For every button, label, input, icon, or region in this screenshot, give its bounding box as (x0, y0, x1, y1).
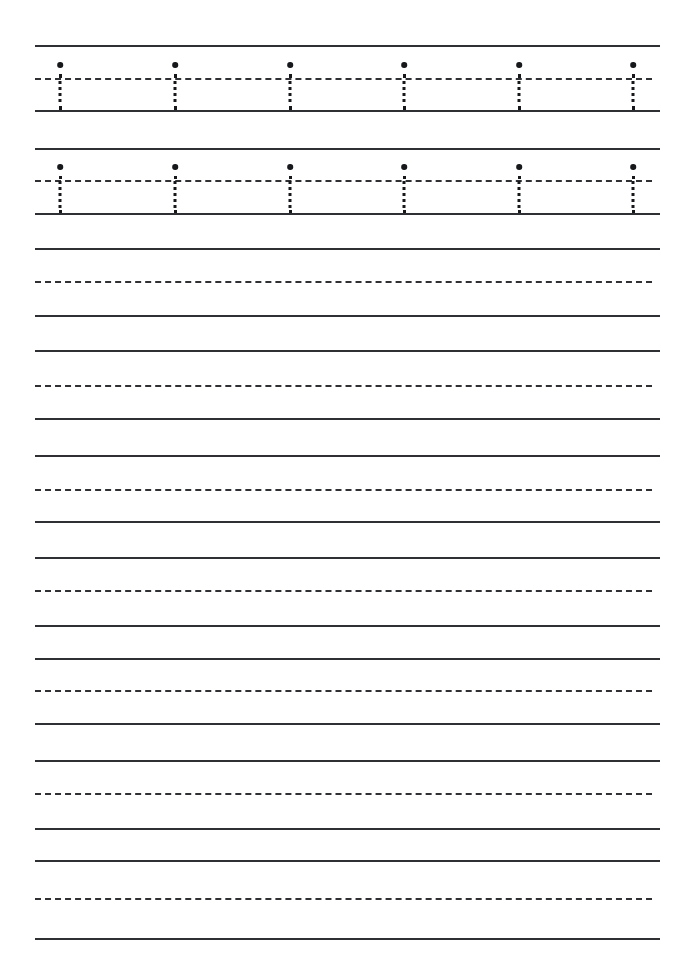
letter-dot-icon (401, 164, 407, 170)
letter-dot-icon (57, 164, 63, 170)
practice-row-2-top-line (35, 350, 660, 352)
trace-letter-i-5 (511, 148, 527, 213)
practice-row-5-mid-line (35, 690, 652, 692)
trace-row-2-top-line (35, 148, 660, 150)
practice-row-1-mid-line (35, 281, 652, 283)
trace-letter-i-2 (167, 148, 183, 213)
practice-row-6-base-line (35, 828, 660, 830)
practice-row-4-mid-line (35, 590, 652, 592)
practice-row-3-base-line (35, 521, 660, 523)
letter-dot-icon (57, 62, 63, 68)
letter-dot-icon (516, 62, 522, 68)
practice-row-2-mid-line (35, 385, 652, 387)
trace-letter-i-1 (52, 148, 68, 213)
practice-row-6-top-line (35, 760, 660, 762)
trace-row-1-mid-line (35, 78, 652, 80)
letter-stem-dotted (518, 74, 521, 110)
trace-letter-i-3 (282, 45, 298, 110)
letter-dot-icon (172, 164, 178, 170)
practice-row-7-mid-line (35, 898, 652, 900)
trace-letter-i-4 (396, 148, 412, 213)
trace-letter-i-4 (396, 45, 412, 110)
trace-letter-i-1 (52, 45, 68, 110)
trace-letter-i-6 (625, 148, 641, 213)
trace-row-1-base-line (35, 110, 660, 112)
letter-stem-dotted (174, 74, 177, 110)
trace-row-1-top-line (35, 45, 660, 47)
trace-letter-i-3 (282, 148, 298, 213)
trace-letter-i-2 (167, 45, 183, 110)
letter-stem-dotted (289, 74, 292, 110)
letter-stem-dotted (174, 176, 177, 213)
practice-row-5-base-line (35, 723, 660, 725)
letter-dot-icon (630, 62, 636, 68)
practice-row-4-top-line (35, 557, 660, 559)
letter-dot-icon (287, 62, 293, 68)
letter-dot-icon (630, 164, 636, 170)
trace-letter-i-5 (511, 45, 527, 110)
practice-row-6-mid-line (35, 793, 652, 795)
letter-dot-icon (516, 164, 522, 170)
trace-row-2-mid-line (35, 180, 652, 182)
letter-stem-dotted (632, 74, 635, 110)
letter-dot-icon (172, 62, 178, 68)
letter-stem-dotted (403, 176, 406, 213)
letter-dot-icon (287, 164, 293, 170)
letter-stem-dotted (59, 74, 62, 110)
letter-stem-dotted (59, 176, 62, 213)
letter-stem-dotted (632, 176, 635, 213)
practice-row-7-base-line (35, 938, 660, 940)
practice-row-5-top-line (35, 658, 660, 660)
handwriting-worksheet-page (0, 0, 695, 974)
practice-row-3-top-line (35, 455, 660, 457)
practice-row-1-base-line (35, 315, 660, 317)
letter-stem-dotted (403, 74, 406, 110)
practice-row-3-mid-line (35, 489, 652, 491)
practice-row-1-top-line (35, 248, 660, 250)
practice-row-2-base-line (35, 418, 660, 420)
practice-row-4-base-line (35, 625, 660, 627)
practice-row-7-top-line (35, 860, 660, 862)
trace-row-2-base-line (35, 213, 660, 215)
letter-stem-dotted (289, 176, 292, 213)
trace-letter-i-6 (625, 45, 641, 110)
letter-dot-icon (401, 62, 407, 68)
letter-stem-dotted (518, 176, 521, 213)
